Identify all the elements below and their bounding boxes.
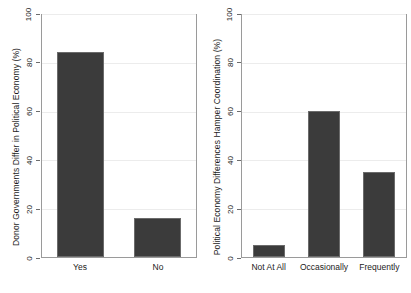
y-tick-left-0: 0 (22, 252, 40, 264)
y-tick-label: 60 (23, 106, 35, 118)
y-axis-title-right-text: Political Economy Differences Hamper Coo… (212, 38, 222, 254)
y-axis-tick-labels-right: 020406080100 (223, 0, 241, 293)
y-tick-mark (36, 160, 40, 161)
bar (363, 172, 395, 257)
bar (253, 245, 285, 257)
y-tick-left-80: 80 (22, 57, 40, 69)
y-tick-left-40: 40 (22, 154, 40, 166)
y-tick-right-100: 100 (223, 8, 241, 20)
x-tick-label: No (153, 262, 164, 272)
bar (308, 111, 340, 257)
x-tick-label: Occasionally (300, 262, 348, 272)
x-tick-label: Frequently (359, 262, 399, 272)
y-tick-right-0: 0 (223, 252, 241, 264)
y-tick-label: 80 (224, 57, 236, 69)
y-tick-label: 100 (23, 8, 35, 20)
y-tick-label: 40 (23, 154, 35, 166)
chart-panel-left: Donor Governments Differ in Political Ec… (0, 0, 205, 293)
y-tick-label: 60 (224, 106, 236, 118)
y-tick-mark (36, 14, 40, 15)
y-tick-mark (36, 258, 40, 259)
y-tick-mark (36, 111, 40, 112)
plot-area-left (41, 14, 197, 258)
y-tick-label: 80 (23, 57, 35, 69)
y-tick-label: 20 (23, 203, 35, 215)
figure-two-panel-bar-charts: Donor Governments Differ in Political Ec… (0, 0, 411, 293)
y-tick-mark (36, 62, 40, 63)
y-tick-left-20: 20 (22, 203, 40, 215)
y-tick-left-100: 100 (22, 8, 40, 20)
y-tick-right-60: 60 (223, 106, 241, 118)
y-tick-right-80: 80 (223, 57, 241, 69)
x-axis-tick-labels-left: YesNo (41, 262, 197, 278)
y-tick-label: 100 (224, 8, 236, 20)
y-tick-label: 0 (23, 252, 35, 264)
y-axis-title-left-text: Donor Governments Differ in Political Ec… (11, 48, 21, 246)
chart-panel-right: Political Economy Differences Hamper Coo… (205, 0, 411, 293)
y-tick-left-60: 60 (22, 106, 40, 118)
y-tick-label: 0 (224, 252, 236, 264)
bar-series-right (242, 15, 406, 257)
x-tick-label: Yes (73, 262, 87, 272)
y-tick-right-40: 40 (223, 154, 241, 166)
y-tick-mark (36, 209, 40, 210)
y-tick-label: 20 (224, 203, 236, 215)
y-tick-right-20: 20 (223, 203, 241, 215)
bar (57, 52, 105, 257)
y-tick-label: 40 (224, 154, 236, 166)
x-axis-tick-labels-right: Not At AllOccasionallyFrequently (241, 262, 407, 278)
bar (134, 218, 182, 257)
y-axis-tick-labels-left: 020406080100 (22, 0, 40, 293)
x-tick-label: Not At All (251, 262, 286, 272)
bar-series-left (42, 15, 196, 257)
plot-area-right (241, 14, 407, 258)
